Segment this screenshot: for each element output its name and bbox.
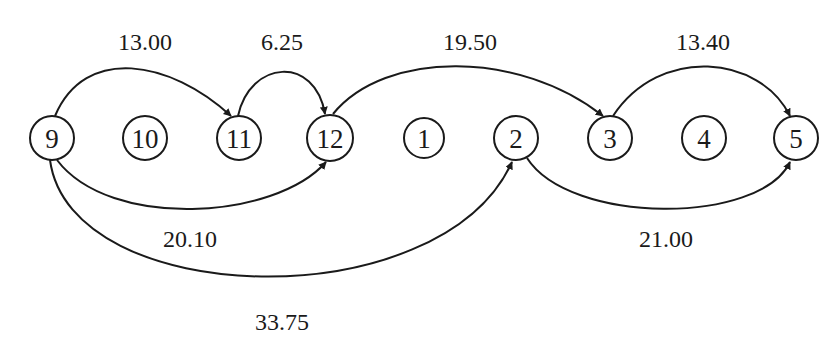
edge-label-3-5: 13.40 [676,29,730,55]
node-label: 11 [226,124,252,154]
node-12: 12 [307,115,353,161]
node-5: 5 [774,116,818,160]
edge-9-11 [55,68,231,116]
node-label: 4 [697,124,711,154]
node-label: 3 [603,124,617,154]
node-label: 9 [45,124,59,154]
edge-label-9-12: 20.10 [163,226,217,252]
node-2: 2 [494,116,538,160]
node-10: 10 [123,116,167,160]
edge-label-9-11: 13.00 [118,29,172,55]
node-3: 3 [588,116,632,160]
node-label: 1 [417,124,431,154]
edge-label-2-5: 21.00 [639,226,693,252]
edge-2-5 [527,158,790,209]
edge-11-12 [238,72,325,116]
edge-label-11-12: 6.25 [261,29,303,55]
node-1: 1 [404,118,444,158]
node-label: 2 [509,124,523,154]
node-4: 4 [682,116,726,160]
edge-label-12-3: 19.50 [443,29,497,55]
node-9: 9 [30,116,74,160]
graph-canvas: 13.00 6.25 19.50 13.40 20.10 33.75 21.00… [0,0,840,340]
edge-3-5 [613,66,790,116]
node-label: 10 [132,124,159,154]
edge-9-12 [57,160,326,209]
node-label: 12 [317,124,344,154]
edge-12-3 [333,66,603,116]
node-label: 5 [789,124,803,154]
edge-9-2 [50,160,512,277]
node-11: 11 [217,116,261,160]
edge-label-9-2: 33.75 [255,309,309,335]
